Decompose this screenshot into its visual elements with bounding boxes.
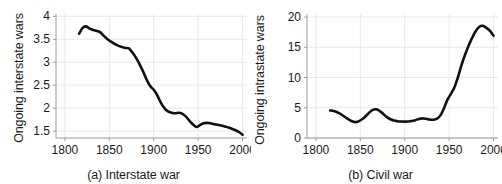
svg-text:1950: 1950 — [436, 143, 463, 157]
svg-text:15: 15 — [288, 40, 302, 54]
svg-text:1950: 1950 — [185, 143, 212, 157]
plot-area-civil: 0510152018001850190019502000 — [265, 0, 502, 184]
svg-text:20: 20 — [288, 10, 302, 24]
svg-text:1900: 1900 — [391, 143, 418, 157]
svg-text:4: 4 — [43, 9, 50, 23]
svg-text:1850: 1850 — [96, 143, 123, 157]
plot-area-interstate: 1.522.533.5418001850190019502000 — [28, 0, 251, 184]
svg-text:2000: 2000 — [229, 143, 251, 157]
y-axis-title-interstate: Ongoing interstate wars — [10, 4, 28, 152]
figure-two-panel-line-charts: Ongoing interstate wars 1.522.533.541800… — [0, 0, 502, 184]
svg-text:1850: 1850 — [347, 143, 374, 157]
svg-text:10: 10 — [288, 71, 302, 85]
svg-text:1.5: 1.5 — [33, 124, 50, 138]
svg-text:1800: 1800 — [303, 143, 330, 157]
svg-text:3: 3 — [43, 55, 50, 69]
caption-civil: (b) Civil war — [255, 168, 502, 182]
line-chart-civil: 0510152018001850190019502000 — [265, 0, 502, 184]
svg-text:0: 0 — [294, 131, 301, 145]
svg-text:1800: 1800 — [52, 143, 79, 157]
caption-interstate: (a) Interstate war — [8, 168, 259, 182]
svg-text:3.5: 3.5 — [33, 32, 50, 46]
line-chart-interstate: 1.522.533.5418001850190019502000 — [28, 0, 251, 184]
svg-text:2000: 2000 — [480, 143, 502, 157]
panel-civil-war: Ongoing intrastate wars 0510152018001850… — [251, 0, 502, 184]
svg-text:2: 2 — [43, 101, 50, 115]
svg-text:2.5: 2.5 — [33, 78, 50, 92]
svg-text:5: 5 — [294, 101, 301, 115]
panel-interstate-war: Ongoing interstate wars 1.522.533.541800… — [0, 0, 251, 184]
svg-text:1900: 1900 — [140, 143, 167, 157]
